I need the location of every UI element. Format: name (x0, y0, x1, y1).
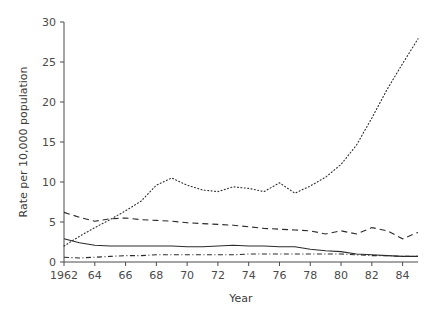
y-axis-title: Rate per 10,000 population (17, 66, 30, 217)
chart-figure: 051015202530 19626466687072747678808284 … (0, 0, 428, 314)
x-tick-label: 78 (303, 269, 317, 282)
x-tick-label: 84 (396, 269, 410, 282)
x-tick-label: 74 (242, 269, 256, 282)
y-tick-label: 25 (42, 56, 56, 69)
x-tick-label: 80 (334, 269, 348, 282)
x-tick-label: 72 (211, 269, 225, 282)
series-dotted (64, 39, 418, 246)
x-tick-label: 76 (272, 269, 286, 282)
x-tick-label: 70 (180, 269, 194, 282)
x-tick-group: 19626466687072747678808284 (50, 262, 410, 282)
data-series-group (64, 39, 418, 258)
series-solid (64, 239, 418, 257)
y-tick-group: 051015202530 (42, 16, 64, 269)
series-dashed (64, 212, 418, 238)
y-tick-label: 5 (49, 216, 56, 229)
y-tick-label: 15 (42, 136, 56, 149)
y-tick-label: 30 (42, 16, 56, 29)
y-tick-label: 10 (42, 176, 56, 189)
y-tick-label: 20 (42, 96, 56, 109)
x-axis: 19626466687072747678808284 (50, 262, 418, 282)
x-tick-label: 82 (365, 269, 379, 282)
y-tick-label: 0 (49, 256, 56, 269)
y-axis: 051015202530 (42, 16, 64, 269)
x-tick-label: 66 (119, 269, 133, 282)
x-tick-label: 1962 (50, 269, 78, 282)
x-axis-title: Year (228, 292, 253, 305)
x-tick-label: 64 (88, 269, 102, 282)
x-tick-label: 68 (149, 269, 163, 282)
chart-canvas: 051015202530 19626466687072747678808284 … (0, 0, 428, 314)
